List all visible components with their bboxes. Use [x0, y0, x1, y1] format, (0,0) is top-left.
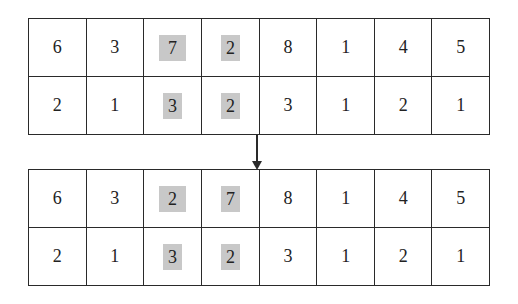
cell-value: 8: [284, 37, 293, 57]
cell: 5: [432, 19, 490, 77]
cell: 1: [317, 228, 375, 286]
cell: 6: [29, 19, 87, 77]
cell-value: 3: [284, 246, 293, 266]
cell-value: 1: [110, 95, 119, 115]
cell-highlighted: 2: [202, 19, 260, 77]
cell-highlighted: 2: [202, 228, 260, 286]
cell-value: 2: [221, 244, 240, 270]
cell: 1: [432, 228, 490, 286]
cell-highlighted: 2: [202, 77, 260, 135]
cell-value: 1: [110, 246, 119, 266]
cell-value: 2: [53, 246, 62, 266]
cell-value: 6: [53, 188, 62, 208]
cell: 4: [374, 170, 432, 228]
cell-value: 6: [53, 37, 62, 57]
cell-highlighted: 7: [202, 170, 260, 228]
cell-value: 5: [456, 37, 465, 57]
cell: 6: [29, 170, 87, 228]
cell-value: 1: [341, 37, 350, 57]
cell-value: 4: [399, 188, 408, 208]
after-row-1: 6 3 2 7 8 1 4 5: [29, 170, 490, 228]
cell: 3: [259, 77, 317, 135]
cell: 3: [259, 228, 317, 286]
cell-value: 1: [341, 95, 350, 115]
cell: 1: [317, 19, 375, 77]
cell-highlighted: 7: [144, 19, 202, 77]
cell: 1: [317, 77, 375, 135]
cell: 2: [29, 228, 87, 286]
cell-highlighted: 3: [144, 77, 202, 135]
cell-value: 2: [221, 93, 240, 119]
cell-value: 4: [399, 37, 408, 57]
cell: 2: [374, 228, 432, 286]
cell: 8: [259, 170, 317, 228]
cell-value: 1: [341, 188, 350, 208]
cell: 3: [86, 170, 144, 228]
cell: 4: [374, 19, 432, 77]
cell-value: 2: [399, 246, 408, 266]
cell: 1: [432, 77, 490, 135]
cell: 3: [86, 19, 144, 77]
before-table: 6 3 7 2 8 1 4 5 2 1 3 2 3 1 2 1: [28, 18, 490, 135]
cell: 5: [432, 170, 490, 228]
cell: 1: [86, 77, 144, 135]
cell: 8: [259, 19, 317, 77]
cell-value: 2: [399, 95, 408, 115]
cell-value: 3: [284, 95, 293, 115]
cell-highlighted: 2: [144, 170, 202, 228]
cell-value: 2: [53, 95, 62, 115]
cell: 2: [29, 77, 87, 135]
cell-value: 1: [341, 246, 350, 266]
before-row-1: 6 3 7 2 8 1 4 5: [29, 19, 490, 77]
cell-value: 1: [456, 246, 465, 266]
cell-value: 2: [159, 186, 186, 212]
cell-value: 3: [110, 188, 119, 208]
down-arrow-icon: [256, 135, 258, 163]
cell-highlighted: 3: [144, 228, 202, 286]
before-row-2: 2 1 3 2 3 1 2 1: [29, 77, 490, 135]
cell-value: 7: [159, 35, 186, 61]
cell-value: 3: [110, 37, 119, 57]
cell-value: 5: [456, 188, 465, 208]
cell-value: 1: [456, 95, 465, 115]
cell: 1: [317, 170, 375, 228]
cell: 1: [86, 228, 144, 286]
cell: 2: [374, 77, 432, 135]
cell-value: 7: [221, 186, 240, 212]
cell-value: 2: [221, 35, 240, 61]
cell-value: 8: [284, 188, 293, 208]
cell-value: 3: [163, 244, 182, 270]
cell-value: 3: [163, 93, 182, 119]
after-table: 6 3 2 7 8 1 4 5 2 1 3 2 3 1 2 1: [28, 169, 490, 286]
after-row-2: 2 1 3 2 3 1 2 1: [29, 228, 490, 286]
